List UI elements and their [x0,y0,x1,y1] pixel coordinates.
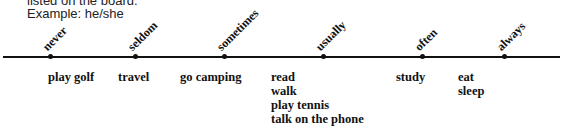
instruction-example: Example: he/she [27,7,124,21]
activity-item: travel [118,70,149,84]
activities-seldom: travel [118,70,149,84]
label-sometimes: sometimes [215,7,261,53]
marker-never-dot [48,54,53,59]
activity-item: walk [271,84,364,98]
label-never: never [41,24,70,53]
activity-item: eat [458,70,484,84]
activity-item: play tennis [271,98,364,112]
activity-item: go camping [180,70,241,84]
activity-item: study [396,70,425,84]
activities-usually: read walk play tennis talk on the phone [271,70,364,126]
activity-item: read [271,70,364,84]
marker-usually-dot [321,54,326,59]
marker-often-dot [420,54,425,59]
frequency-axis-line [3,56,560,58]
activity-item: talk on the phone [271,112,364,126]
activities-never: play golf [48,70,94,84]
label-usually: usually [314,19,348,53]
marker-sometimes-dot [222,54,227,59]
activities-often: study [396,70,425,84]
label-always: always [495,20,528,53]
label-seldom: seldom [126,19,160,53]
activities-sometimes: go camping [180,70,241,84]
activity-item: sleep [458,84,484,98]
activity-item: play golf [48,70,94,84]
marker-always-dot [502,54,507,59]
marker-seldom-dot [133,54,138,59]
activities-always: eat sleep [458,70,484,98]
label-often: often [413,26,440,53]
